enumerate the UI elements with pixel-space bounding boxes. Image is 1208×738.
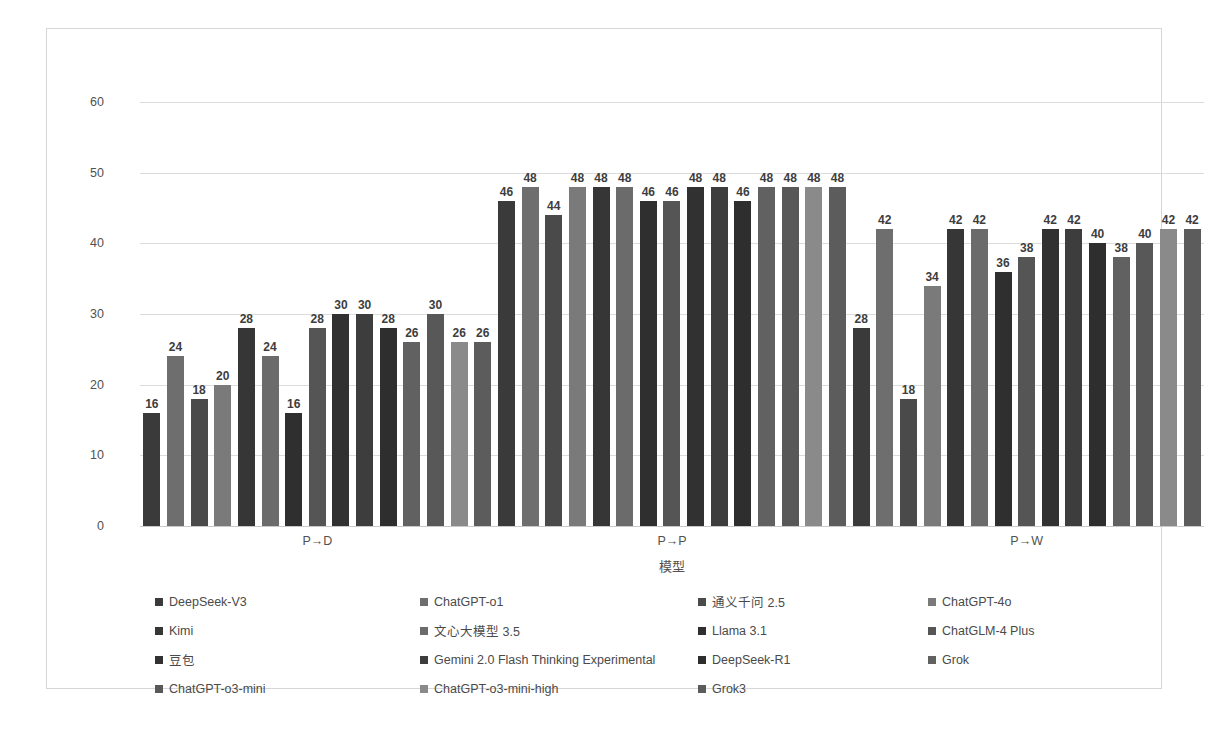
bar[interactable]: 46 <box>663 201 680 526</box>
bar-value-label: 46 <box>665 186 678 198</box>
legend-item[interactable]: Kimi <box>155 624 420 638</box>
bar[interactable]: 46 <box>498 201 515 526</box>
bar-slot: 28 <box>305 102 329 526</box>
legend-item[interactable]: 豆包 <box>155 650 420 669</box>
y-tick-label-40: 40 <box>64 236 104 250</box>
legend-item[interactable]: DeepSeek-R1 <box>698 653 928 667</box>
legend-item[interactable]: ChatGPT-o1 <box>420 595 698 609</box>
bar[interactable]: 48 <box>805 187 822 526</box>
bar-slot: 46 <box>495 102 519 526</box>
legend-swatch-icon <box>698 685 706 693</box>
bar-value-label: 16 <box>145 398 158 410</box>
bar[interactable]: 24 <box>167 356 184 526</box>
bar[interactable]: 18 <box>191 399 208 526</box>
bar[interactable]: 42 <box>876 229 893 526</box>
legend-item[interactable]: Gemini 2.0 Flash Thinking Experimental <box>420 653 698 667</box>
bar-group-3: 284218344242363842424038404242 <box>849 102 1204 526</box>
bar[interactable]: 48 <box>711 187 728 526</box>
bar[interactable]: 30 <box>427 314 444 526</box>
bar-slot: 48 <box>707 102 731 526</box>
bar[interactable]: 20 <box>214 385 231 526</box>
bar-value-label: 42 <box>1044 214 1057 226</box>
bar-slot: 42 <box>944 102 968 526</box>
bar[interactable]: 42 <box>947 229 964 526</box>
bar[interactable]: 48 <box>782 187 799 526</box>
bar[interactable]: 46 <box>640 201 657 526</box>
chart-legend: DeepSeek-V3ChatGPT-o1通义千问 2.5ChatGPT-4oK… <box>155 587 1145 703</box>
bar[interactable]: 34 <box>924 286 941 526</box>
bar-value-label: 40 <box>1091 228 1104 240</box>
legend-item-label: DeepSeek-R1 <box>712 653 791 667</box>
legend-row: Kimi文心大模型 3.5Llama 3.1ChatGLM-4 Plus <box>155 616 1145 645</box>
gridline-0 <box>140 526 1204 527</box>
bar[interactable]: 26 <box>451 342 468 526</box>
bar[interactable]: 26 <box>474 342 491 526</box>
bar[interactable]: 42 <box>971 229 988 526</box>
bar[interactable]: 24 <box>262 356 279 526</box>
bar-slot: 40 <box>1086 102 1110 526</box>
bar[interactable]: 30 <box>356 314 373 526</box>
bar[interactable]: 42 <box>1065 229 1082 526</box>
bar[interactable]: 28 <box>238 328 255 526</box>
bar-slot: 28 <box>235 102 259 526</box>
bar[interactable]: 42 <box>1160 229 1177 526</box>
bar[interactable]: 30 <box>332 314 349 526</box>
legend-item[interactable]: ChatGPT-o3-mini-high <box>420 682 698 696</box>
y-tick-label-30: 30 <box>64 307 104 321</box>
bar[interactable]: 26 <box>403 342 420 526</box>
bar-slot: 34 <box>920 102 944 526</box>
bar[interactable]: 48 <box>829 187 846 526</box>
bar[interactable]: 18 <box>900 399 917 526</box>
bar[interactable]: 38 <box>1113 257 1130 526</box>
bar[interactable]: 38 <box>1018 257 1035 526</box>
bar[interactable]: 28 <box>853 328 870 526</box>
legend-item[interactable]: 通义千问 2.5 <box>698 592 928 611</box>
bar[interactable]: 16 <box>143 413 160 526</box>
bar[interactable]: 16 <box>285 413 302 526</box>
legend-item[interactable]: ChatGPT-4o <box>928 595 1145 609</box>
bar[interactable]: 48 <box>758 187 775 526</box>
bar[interactable]: 46 <box>734 201 751 526</box>
x-axis-title: 模型 <box>140 556 1204 575</box>
bar-value-label: 48 <box>594 172 607 184</box>
bar-value-label: 48 <box>807 172 820 184</box>
bar-slot: 48 <box>566 102 590 526</box>
legend-item[interactable]: Grok3 <box>698 682 928 696</box>
bar[interactable]: 48 <box>593 187 610 526</box>
bar[interactable]: 42 <box>1184 229 1201 526</box>
bar-value-label: 28 <box>382 313 395 325</box>
bar-slot: 16 <box>282 102 306 526</box>
legend-row: DeepSeek-V3ChatGPT-o1通义千问 2.5ChatGPT-4o <box>155 587 1145 616</box>
bar-slot: 48 <box>755 102 779 526</box>
bar-slot: 24 <box>164 102 188 526</box>
bar[interactable]: 28 <box>380 328 397 526</box>
legend-item[interactable]: Grok <box>928 653 1145 667</box>
x-category-label-1: P→D <box>140 534 495 556</box>
bar[interactable]: 44 <box>545 215 562 526</box>
bar[interactable]: 42 <box>1042 229 1059 526</box>
legend-item-label: 文心大模型 3.5 <box>434 621 520 640</box>
bar-slot: 42 <box>873 102 897 526</box>
bar[interactable]: 48 <box>687 187 704 526</box>
bar[interactable]: 28 <box>309 328 326 526</box>
legend-item[interactable]: 文心大模型 3.5 <box>420 621 698 640</box>
legend-item-label: ChatGPT-o3-mini-high <box>434 682 558 696</box>
bar[interactable]: 40 <box>1136 243 1153 526</box>
legend-item-label: 豆包 <box>169 650 195 669</box>
legend-item[interactable]: ChatGPT-o3-mini <box>155 682 420 696</box>
bar[interactable]: 48 <box>522 187 539 526</box>
bar-value-label: 24 <box>263 341 276 353</box>
bar-slot: 28 <box>376 102 400 526</box>
legend-item[interactable]: DeepSeek-V3 <box>155 595 420 609</box>
plot-area: 0102030405060 16241820282416283030282630… <box>140 102 1204 526</box>
bar[interactable]: 48 <box>616 187 633 526</box>
bar[interactable]: 40 <box>1089 243 1106 526</box>
bar-value-label: 42 <box>1185 214 1198 226</box>
bar[interactable]: 48 <box>569 187 586 526</box>
bar[interactable]: 36 <box>995 272 1012 526</box>
legend-item-label: ChatGPT-4o <box>942 595 1011 609</box>
legend-item[interactable]: Llama 3.1 <box>698 624 928 638</box>
legend-item[interactable]: ChatGLM-4 Plus <box>928 624 1145 638</box>
bar-group-1: 162418202824162830302826302626 <box>140 102 495 526</box>
bar-value-label: 48 <box>831 172 844 184</box>
